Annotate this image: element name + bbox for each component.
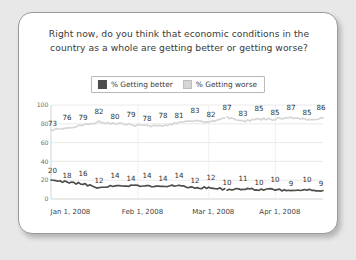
- svg-text:87: 87: [286, 103, 295, 112]
- svg-text:9: 9: [319, 179, 324, 188]
- poll-chart-card: Right now, do you think that economic co…: [18, 12, 338, 234]
- svg-text:80: 80: [110, 112, 120, 121]
- svg-text:79: 79: [78, 113, 88, 122]
- svg-text:Mar 1, 2008: Mar 1, 2008: [192, 208, 234, 216]
- chart-legend: % Getting better % Getting worse: [91, 76, 265, 93]
- svg-text:10: 10: [254, 178, 264, 187]
- svg-text:Feb 1, 2008: Feb 1, 2008: [122, 208, 163, 216]
- svg-text:Jan 1, 2008: Jan 1, 2008: [50, 208, 91, 216]
- svg-text:14: 14: [142, 171, 152, 180]
- svg-text:10: 10: [222, 178, 232, 187]
- svg-text:0: 0: [45, 195, 49, 202]
- svg-text:12: 12: [206, 173, 215, 182]
- svg-text:100: 100: [37, 101, 49, 108]
- legend-swatch-worse: [183, 80, 192, 89]
- svg-text:20: 20: [48, 166, 58, 175]
- svg-text:18: 18: [62, 171, 72, 180]
- svg-text:78: 78: [142, 114, 152, 123]
- svg-text:14: 14: [110, 171, 120, 180]
- screenshot-root: Right now, do you think that economic co…: [0, 0, 356, 260]
- legend-label-worse: % Getting worse: [196, 80, 257, 89]
- svg-text:10: 10: [302, 175, 312, 184]
- svg-text:85: 85: [254, 104, 263, 113]
- svg-text:14: 14: [126, 174, 136, 183]
- svg-text:87: 87: [222, 103, 231, 112]
- svg-text:82: 82: [206, 110, 215, 119]
- svg-text:81: 81: [174, 111, 183, 120]
- legend-entry-better: % Getting better: [98, 80, 173, 89]
- svg-text:79: 79: [126, 110, 136, 119]
- chart-plot-area: 020406080100Jan 1, 2008Feb 1, 2008Mar 1,…: [31, 99, 327, 223]
- svg-text:60: 60: [41, 139, 49, 146]
- title-line-1: Right now, do you think that economic co…: [35, 27, 323, 41]
- svg-text:83: 83: [238, 109, 247, 118]
- legend-swatch-better: [98, 80, 107, 89]
- svg-text:82: 82: [94, 107, 103, 116]
- svg-text:16: 16: [78, 169, 88, 178]
- svg-text:14: 14: [174, 171, 184, 180]
- svg-text:86: 86: [316, 103, 326, 112]
- svg-text:20: 20: [41, 176, 49, 183]
- title-line-2: country as a whole are getting better or…: [35, 41, 323, 55]
- svg-text:12: 12: [190, 176, 199, 185]
- svg-text:10: 10: [270, 175, 280, 184]
- svg-text:73: 73: [48, 119, 57, 128]
- svg-text:11: 11: [238, 174, 247, 183]
- legend-label-better: % Getting better: [111, 80, 173, 89]
- svg-text:78: 78: [158, 111, 168, 120]
- svg-text:Apr 1, 2008: Apr 1, 2008: [259, 208, 300, 216]
- svg-text:12: 12: [94, 176, 103, 185]
- legend-entry-worse: % Getting worse: [183, 80, 257, 89]
- page-title: Right now, do you think that economic co…: [35, 27, 323, 54]
- svg-text:85: 85: [302, 108, 311, 117]
- svg-text:9: 9: [289, 179, 294, 188]
- svg-text:76: 76: [62, 113, 72, 122]
- svg-text:85: 85: [270, 108, 279, 117]
- line-chart: 020406080100Jan 1, 2008Feb 1, 2008Mar 1,…: [31, 99, 327, 223]
- svg-text:40: 40: [41, 158, 49, 165]
- svg-text:83: 83: [190, 106, 199, 115]
- svg-text:14: 14: [158, 174, 168, 183]
